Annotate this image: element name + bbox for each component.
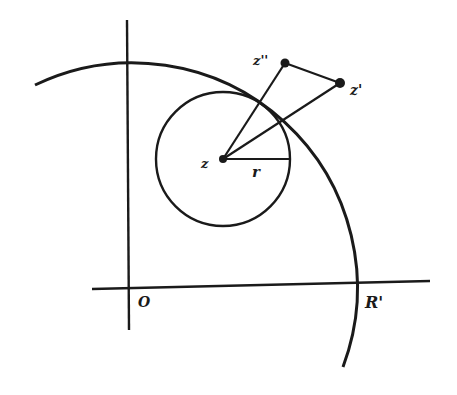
segment-z-to-z-double-prime [223,63,285,159]
vertical-axis [127,20,129,330]
point-z-double-prime [281,59,290,68]
label-origin: O [138,295,150,309]
diagram-canvas: z r z'' z' O R' [0,0,457,395]
diagram-svg [0,0,457,395]
label-z-double-prime: z'' [253,54,268,67]
label-r: r [252,165,260,180]
point-z-prime [335,78,345,88]
large-arc-R-prime [35,63,357,367]
point-z [219,155,227,163]
segment-z-double-prime-to-z-prime [285,63,340,83]
label-z: z [201,157,208,170]
label-R-prime: R' [365,295,383,311]
label-z-prime: z' [350,83,362,97]
horizontal-axis [92,281,430,289]
